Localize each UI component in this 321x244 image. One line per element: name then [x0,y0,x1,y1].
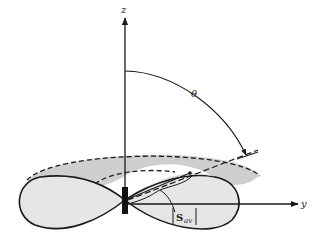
z-axis-label: z [120,4,127,15]
poynting-vector-tip [188,171,192,175]
theta-label: θ [191,88,197,99]
left-lobe [19,176,125,229]
svg-text:av: av [184,217,192,225]
theta-arc [125,71,246,155]
y-axis-label: y [300,198,307,209]
dipole-antenna [122,187,128,214]
svg-text:S: S [176,212,183,223]
dipole-radiation-diagram: z y θ S av [0,0,321,244]
theta-tick [237,152,258,159]
